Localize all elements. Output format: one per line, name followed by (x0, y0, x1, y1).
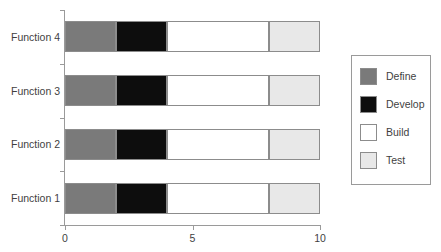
bar-segment-test (269, 21, 320, 52)
category-axis-labels: Function 1Function 2Function 3Function 4 (0, 0, 60, 252)
legend-label-test: Test (386, 154, 405, 166)
y-axis-tick (60, 118, 65, 119)
category-label-function-4: Function 4 (2, 31, 60, 43)
legend-label-build: Build (386, 126, 409, 138)
y-axis-tick (60, 10, 65, 11)
stacked-bar-chart: Function 1Function 2Function 3Function 4… (0, 0, 441, 252)
chart-legend: DefineDevelopBuildTest (351, 55, 431, 185)
x-axis-tick (65, 225, 66, 230)
legend-swatch-build (360, 124, 377, 141)
bar-segment-build (167, 183, 269, 214)
category-label-function-3: Function 3 (2, 85, 60, 97)
category-label-function-2: Function 2 (2, 138, 60, 150)
x-axis-tick-label: 5 (190, 232, 196, 244)
bar-segment-develop (116, 75, 167, 106)
legend-swatch-define (360, 68, 377, 85)
legend-item-build[interactable]: Build (360, 121, 409, 143)
bar-segment-test (269, 129, 320, 160)
x-axis-tick-label: 10 (314, 232, 326, 244)
bar-segment-develop (116, 21, 167, 52)
bar-segment-define (65, 75, 116, 106)
category-label-function-1: Function 1 (2, 192, 60, 204)
x-axis-tick-label: 0 (62, 232, 68, 244)
bar-segment-define (65, 129, 116, 160)
bar-segment-test (269, 75, 320, 106)
legend-item-define[interactable]: Define (360, 65, 416, 87)
legend-label-define: Define (386, 70, 416, 82)
bar-segment-build (167, 21, 269, 52)
legend-label-develop: Develop (386, 98, 425, 110)
plot-area: 0510 (65, 10, 320, 225)
legend-item-test[interactable]: Test (360, 149, 405, 171)
bar-segment-define (65, 183, 116, 214)
bar-segment-define (65, 21, 116, 52)
legend-item-develop[interactable]: Develop (360, 93, 425, 115)
y-axis-tick (60, 64, 65, 65)
bar-segment-build (167, 75, 269, 106)
x-axis-tick (193, 225, 194, 230)
bar-segment-build (167, 129, 269, 160)
y-axis-tick (60, 171, 65, 172)
bar-segment-develop (116, 183, 167, 214)
legend-swatch-test (360, 152, 377, 169)
x-axis-tick (320, 225, 321, 230)
bar-segment-develop (116, 129, 167, 160)
bar-segment-test (269, 183, 320, 214)
legend-swatch-develop (360, 96, 377, 113)
